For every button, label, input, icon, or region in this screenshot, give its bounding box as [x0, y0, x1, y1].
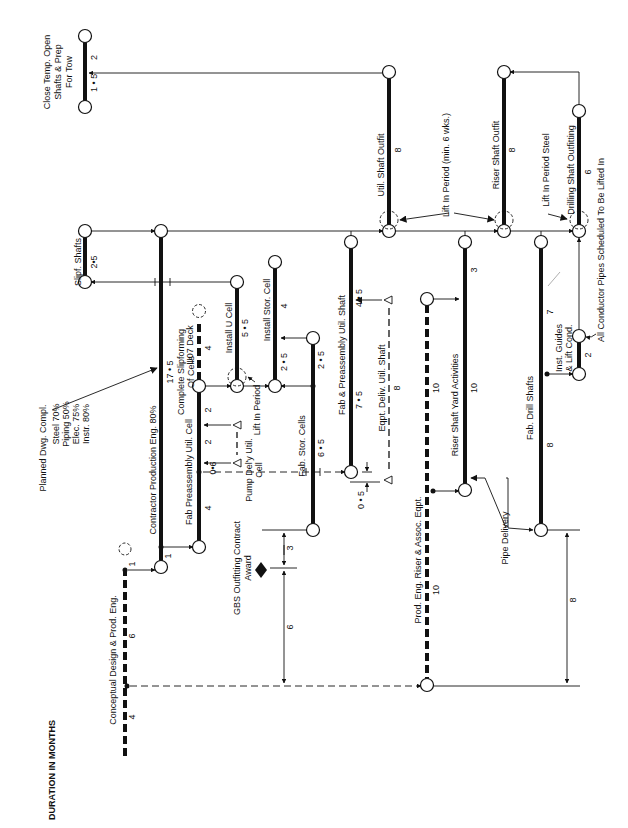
pipe-delivery-note: Pipe Delivery — [471, 478, 533, 565]
svg-text:GBS Outfitting Contract: GBS Outfitting Contract — [232, 520, 242, 615]
duration: 5 • 5 — [240, 319, 250, 337]
activity-label: Close Temp. Open — [42, 35, 52, 109]
node — [535, 524, 548, 537]
network-diagram: Close Temp. Open Shafts & Prep For Tow 2… — [0, 0, 628, 828]
node — [231, 380, 244, 393]
duration: 10 — [431, 585, 441, 595]
duration: 3 — [469, 267, 479, 272]
activity-label: Prod. Eng. Riser & Assoc. Eqpt. — [413, 496, 423, 623]
activity-label: Fab. Stor. Cells — [297, 415, 307, 477]
activity-conceptual-design: Conceptual Design & Prod. Eng. 1 6 4 — [108, 543, 155, 756]
milestone-diamond-icon — [255, 562, 267, 578]
node — [193, 541, 206, 554]
activity-label: Util. Shaft Outfit — [376, 133, 386, 197]
activity-label: Riser Shaft Outfit — [491, 120, 501, 189]
activity-label: Conceptual Design & Prod. Eng. — [108, 595, 118, 725]
activity-slipf-shafts: Slipf. Shafts 2•5 — [73, 225, 99, 289]
node — [269, 256, 282, 269]
duration: 1 • 5 — [89, 74, 99, 92]
activity-contractor-production-eng: Contractor Production Eng. 80% 1 — [148, 225, 173, 574]
node — [498, 66, 511, 79]
svg-text:0 • 5: 0 • 5 — [356, 491, 366, 509]
svg-text:8: 8 — [568, 597, 578, 602]
node — [155, 561, 168, 574]
node — [79, 225, 92, 238]
svg-text:All Conductor Pipes Scheduled: All Conductor Pipes Scheduled To Be Lift… — [596, 158, 606, 342]
activity-prod-eng-riser: Prod. Eng. Riser & Assoc. Eqpt. 10 10 — [413, 293, 459, 692]
duration: 8 — [392, 385, 402, 390]
activity-label: Eqpt. Deliv. Util. Shaft — [377, 344, 387, 431]
duration: 4 — [203, 505, 213, 510]
activity-inst-guides-lift-cond: Inst. Guides & Lift Cond. 2 — [545, 238, 597, 381]
svg-text:Planned Dwg. Compl.: Planned Dwg. Compl. — [38, 404, 48, 491]
duration: 2 — [203, 407, 213, 412]
duration: 4 — [279, 303, 289, 308]
node — [573, 330, 586, 343]
duration: 7 — [545, 309, 555, 314]
duration: 2•5 — [89, 255, 99, 268]
node — [79, 101, 92, 114]
activity-label: Pump Del'y Util. — [244, 438, 254, 502]
duration: 1 — [163, 553, 173, 558]
node — [498, 225, 511, 238]
activity-label: Contractor Production Eng. 80% — [148, 405, 158, 534]
dependency-arrow — [510, 72, 579, 104]
duration: 7 • 5 — [354, 391, 364, 409]
duration: 6 • 5 — [316, 439, 326, 457]
activity-util-shaft-outfit: Util. Shaft Outfit 8 — [376, 66, 403, 238]
svg-text:Piping 50%: Piping 50% — [61, 401, 71, 447]
node — [345, 466, 358, 479]
activity-label: Riser Shaft Yard Activities — [450, 353, 460, 456]
node — [345, 236, 358, 249]
lift-in-period-cell-note: Lift In Period — [252, 385, 262, 436]
node — [383, 66, 396, 79]
node — [79, 30, 92, 43]
svg-text:Lift In Period Steel: Lift In Period Steel — [541, 133, 551, 207]
activity-fab-stor-cells: Fab. Stor. Cells 2 • 5 6 • 5 — [297, 332, 326, 537]
planned-drawing-completion-note: Planned Dwg. Compl. Steel 70% Piping 50%… — [38, 368, 157, 492]
activity-label: & Lift Cond. — [564, 324, 574, 371]
activity-fab-drill-shafts: Fab. Drill Shafts 7 8 — [525, 236, 560, 537]
activity-riser-shaft-outfit: Riser Shaft Outfit 8 — [491, 66, 517, 238]
diagram-title: DURATION IN MONTHS — [47, 720, 57, 820]
duration: 6 — [583, 169, 593, 174]
activity-close-temp-shafts: Close Temp. Open Shafts & Prep For Tow 2… — [42, 30, 99, 114]
node — [307, 332, 320, 345]
activity-label: Fab. Drill Shafts — [525, 375, 535, 440]
node — [383, 225, 396, 238]
activity-label: Drilling Shaft Outfitting — [566, 125, 576, 215]
node — [573, 225, 586, 238]
svg-text:Lift In Period (min. 6 wks.): Lift In Period (min. 6 wks.) — [441, 113, 451, 217]
duration: 6 — [127, 633, 137, 638]
duration: 17 • 5 — [165, 360, 175, 383]
svg-text:Award: Award — [243, 555, 253, 580]
gbs-outfitting-contract-award: GBS Outfitting Contract Award — [232, 520, 267, 615]
duration: 2 — [89, 55, 99, 60]
node — [307, 524, 320, 537]
activity-label: Shafts & Prep — [53, 44, 63, 100]
svg-text:Elec. 75%: Elec. 75% — [71, 404, 81, 445]
duration: 10 — [431, 383, 441, 393]
activity-install-stor-cell: Install Stor. Cell 4 2 • 5 — [262, 256, 289, 393]
duration: 4 — [127, 714, 137, 719]
activity-label: U07 Deck — [185, 325, 195, 365]
svg-text:Instr. 80%: Instr. 80% — [81, 404, 91, 444]
duration: 2 — [583, 352, 593, 357]
node — [535, 236, 548, 249]
activity-drilling-shaft-outfitting: Drilling Shaft Outfitting 6 — [566, 105, 593, 238]
activity-install-u-cell: Install U Cell 5 • 5 — [224, 276, 250, 393]
activity-label: Slipf. Shafts — [73, 237, 83, 286]
node — [421, 293, 434, 306]
duration: 2 • 5 — [316, 351, 326, 369]
node — [459, 484, 472, 497]
duration: 4 — [203, 345, 213, 350]
duration: 2 — [203, 439, 213, 444]
svg-text:3: 3 — [285, 545, 295, 550]
svg-text:6: 6 — [285, 624, 295, 629]
activity-label: Fab Preassembly Util. Cell — [184, 419, 194, 525]
node — [459, 236, 472, 249]
activity-riser-shaft-yard: Riser Shaft Yard Activities 3 10 — [450, 236, 479, 497]
activity-label: Cell — [254, 462, 264, 478]
duration: 2 • 5 — [279, 353, 289, 371]
duration: 8 — [393, 147, 403, 152]
